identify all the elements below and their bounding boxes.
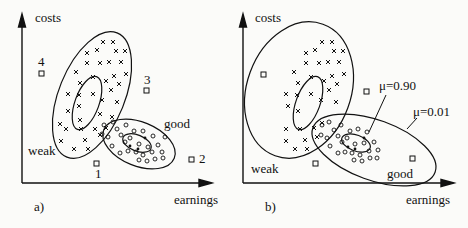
- cross-icon: [95, 48, 99, 52]
- panel-caption: a): [34, 199, 44, 214]
- cross-icon: [98, 112, 102, 116]
- circle-icon: [352, 158, 356, 162]
- outlier-label-4: 4: [38, 54, 45, 69]
- cross-icon: [293, 147, 297, 151]
- cross-icon: [117, 82, 121, 86]
- circle-icon: [348, 129, 352, 133]
- circle-icon: [137, 142, 141, 146]
- circle-icon: [350, 151, 354, 155]
- x-axis-arrow-icon: [441, 180, 454, 187]
- leader-mu-001: [407, 118, 417, 129]
- circle-icon: [128, 136, 132, 140]
- cross-icon: [114, 49, 118, 53]
- cross-icon: [296, 109, 300, 113]
- cross-icon: [286, 104, 290, 108]
- cross-icon: [327, 88, 331, 92]
- cross-icon: [296, 81, 300, 85]
- circle-icon: [356, 127, 360, 131]
- weak-inner-ellipse: [66, 73, 108, 134]
- circle-icon: [110, 144, 114, 148]
- x-axis-arrow-icon: [199, 180, 212, 187]
- circle-icon: [353, 142, 357, 146]
- circle-icon: [376, 148, 380, 152]
- cross-icon: [334, 100, 338, 104]
- square-icon: [261, 72, 266, 77]
- circle-icon: [372, 140, 376, 144]
- circle-icon: [368, 156, 372, 160]
- cross-icon: [304, 51, 308, 55]
- cross-icon: [101, 40, 105, 44]
- cross-icon: [59, 139, 63, 143]
- cross-icon: [74, 70, 78, 74]
- square-icon: [313, 161, 318, 166]
- circle-icon: [360, 159, 364, 163]
- circle-icon: [126, 149, 130, 153]
- good-points: [319, 120, 380, 163]
- cross-icon: [64, 127, 68, 131]
- cross-icon: [341, 49, 345, 53]
- circle-icon: [141, 153, 145, 157]
- cross-icon: [309, 92, 313, 96]
- panel-a: costs earnings a): [0, 0, 234, 228]
- cross-icon: [83, 138, 87, 142]
- cross-icon: [284, 92, 288, 96]
- square-icon: [144, 88, 149, 93]
- cross-icon: [317, 61, 321, 65]
- circle-icon: [132, 129, 136, 133]
- cross-icon: [284, 127, 288, 131]
- cross-icon: [292, 70, 296, 74]
- cross-icon: [109, 88, 113, 92]
- circle-icon: [343, 150, 347, 154]
- cross-icon: [85, 61, 89, 65]
- leader-mu-090: [369, 95, 386, 132]
- cross-icon: [112, 74, 116, 78]
- square-icon: [39, 71, 44, 76]
- circle-icon: [336, 151, 340, 155]
- cross-icon: [320, 40, 324, 44]
- cross-icon: [111, 40, 115, 44]
- outlier-label-3: 3: [144, 72, 151, 87]
- circle-icon: [325, 136, 329, 140]
- panel-b: costs earnings b) μ=0.90 μ=0.01: [234, 0, 468, 228]
- circle-icon: [365, 130, 369, 134]
- cross-icon: [66, 109, 70, 113]
- cross-icon: [330, 40, 334, 44]
- cross-icon: [77, 104, 81, 108]
- circle-icon: [145, 159, 149, 163]
- cross-icon: [86, 147, 90, 151]
- cross-icon: [315, 135, 319, 139]
- circle-icon: [153, 157, 157, 161]
- x-axis-label: earnings: [174, 192, 218, 207]
- cluster-label-weak: weak: [28, 143, 56, 158]
- cross-icon: [326, 60, 330, 64]
- cross-icon: [58, 122, 62, 126]
- y-axis-arrow-icon: [19, 14, 26, 27]
- circle-icon: [141, 129, 145, 133]
- cross-icon: [322, 79, 326, 83]
- circle-icon: [146, 145, 150, 149]
- cluster-label-good: good: [164, 116, 191, 131]
- cross-icon: [337, 60, 341, 64]
- circle-icon: [362, 141, 366, 145]
- circle-icon: [115, 127, 119, 131]
- x-axis-label: earnings: [406, 192, 450, 207]
- cross-icon: [313, 48, 317, 52]
- cross-icon: [305, 147, 309, 151]
- circle-icon: [119, 133, 123, 137]
- circle-icon: [118, 151, 122, 155]
- y-axis-arrow-icon: [240, 14, 247, 27]
- cross-icon: [335, 82, 339, 86]
- cross-icon: [98, 61, 102, 65]
- cross-icon: [107, 60, 111, 64]
- circle-icon: [327, 120, 331, 124]
- circle-icon: [328, 144, 332, 148]
- cross-icon: [304, 61, 308, 65]
- weak-points: [58, 40, 128, 151]
- cluster-label-good: good: [387, 166, 414, 181]
- cross-icon: [91, 92, 95, 96]
- cross-icon: [104, 79, 108, 83]
- square-icon: [410, 156, 415, 161]
- square-icon: [364, 89, 369, 94]
- cross-icon: [284, 139, 288, 143]
- cross-icon: [342, 72, 346, 76]
